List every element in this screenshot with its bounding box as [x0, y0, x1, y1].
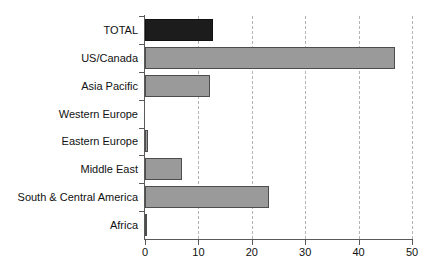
x-tick-label: 40: [352, 246, 364, 259]
x-tick-label: 10: [192, 246, 204, 259]
x-tick-10: [198, 240, 199, 245]
x-tick-40: [359, 240, 360, 245]
bar: [145, 75, 210, 97]
x-tick-0: [145, 240, 146, 245]
x-tick-20: [252, 240, 253, 245]
category-label: Asia Pacific: [81, 75, 145, 97]
category-label: South & Central America: [18, 186, 145, 208]
bar: [145, 130, 148, 152]
bar: [145, 214, 147, 236]
x-tick-label: 50: [406, 246, 418, 259]
bar: [145, 19, 213, 41]
bar: [145, 186, 269, 208]
x-tick-30: [305, 240, 306, 245]
bar: [145, 47, 395, 69]
x-tick-label: 0: [142, 246, 148, 259]
bar: [145, 158, 182, 180]
category-label: Western Europe: [59, 103, 145, 125]
x-axis-line: [144, 239, 413, 240]
bar-chart: TOTALUS/CanadaAsia PacificWestern Europe…: [0, 0, 435, 276]
y-axis-line: [144, 15, 145, 240]
category-label: Africa: [110, 214, 145, 236]
category-label: US/Canada: [81, 47, 145, 69]
gridline-50: [412, 16, 413, 239]
category-label: Middle East: [81, 158, 145, 180]
category-label: Eastern Europe: [62, 130, 145, 152]
x-tick-label: 30: [299, 246, 311, 259]
x-tick-label: 20: [246, 246, 258, 259]
x-tick-50: [412, 240, 413, 245]
category-label: TOTAL: [104, 19, 145, 41]
